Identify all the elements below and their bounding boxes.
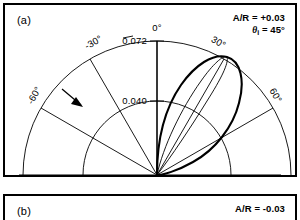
polar-spoke-60deg [157,108,273,175]
angular-label-minus60deg: -60° [25,85,44,106]
theta-value: = 45° [259,24,285,35]
figure-root: 0° 30° 60° -30° -60° 0.072 0.040 (a) A/R… [0,0,300,220]
panel-a: 0° 30° 60° -30° -60° 0.072 0.040 (a) A/R… [3,3,297,177]
panel-a-ratio-label: A/R = +0.03 [233,12,285,24]
angular-label-30deg: 30° [210,33,228,50]
panel-a-label: (a) [17,14,31,26]
panel-a-annotations: A/R = +0.03 θi = 45° [233,12,285,39]
panel-b: (b) A/R = -0.03 [3,194,297,220]
angular-label-60deg: 60° [268,86,285,104]
panel-a-theta-label: θi = 45° [233,24,285,39]
radial-label-0040: 0.040 [122,95,147,106]
panel-b-ratio-label: A/R = -0.03 [235,203,285,215]
polar-spoke-minus60deg [41,108,157,175]
panel-b-annotations: A/R = -0.03 [235,203,285,215]
radial-label-0072: 0.072 [122,35,147,46]
panel-b-label: (b) [17,205,31,217]
angular-label-minus30deg: -30° [83,33,104,52]
angular-label-0deg: 0° [152,22,161,33]
polar-spoke-minus30deg [90,59,157,175]
polar-spoke-30deg [157,59,224,175]
incidence-arrow-icon [62,89,83,107]
